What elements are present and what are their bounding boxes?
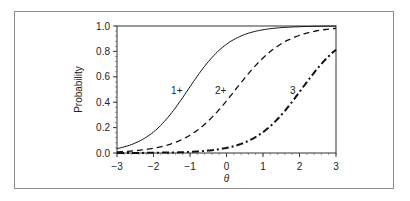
y-axis-label: Probability	[73, 66, 84, 113]
curve-label: 3	[290, 85, 296, 96]
x-tick-label: 0	[224, 161, 230, 172]
x-axis-label: θ	[224, 173, 230, 184]
x-tick-label: −1	[184, 161, 196, 172]
curve-2plus	[117, 28, 336, 152]
x-tick-label: −3	[111, 161, 123, 172]
y-tick-label: 0.4	[96, 97, 110, 108]
curves	[117, 26, 336, 153]
y-tick-label: 0.6	[96, 71, 110, 82]
plot-box	[117, 26, 336, 153]
y-tick-label: 0.2	[96, 122, 110, 133]
y-tick-label: 0.0	[96, 148, 110, 159]
plot-axes: 0.00.20.40.60.81.0−3−2−10123θProbability	[73, 21, 339, 185]
x-tick-label: 1	[260, 161, 266, 172]
x-tick-label: 3	[333, 161, 339, 172]
y-tick-label: 0.8	[96, 46, 110, 57]
curve-label: 2+	[215, 85, 227, 96]
chart: 0.00.20.40.60.81.0−3−2−10123θProbability…	[0, 0, 410, 201]
curve-label: 1+	[171, 85, 183, 96]
x-tick-label: −2	[148, 161, 160, 172]
y-tick-label: 1.0	[96, 21, 110, 32]
x-tick-label: 2	[297, 161, 303, 172]
